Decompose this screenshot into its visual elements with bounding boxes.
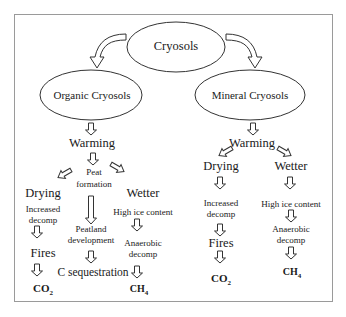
arrow-down-icon [286,247,297,259]
left-c-sequestration: C sequestration [57,267,128,279]
arrow-down-icon [32,264,43,276]
right-drying: Drying [203,160,238,173]
arrow-down-icon [86,196,97,224]
arrow-down-icon [215,224,226,236]
left-wetter: Wetter [126,187,159,200]
arrow-down-icon [86,123,97,135]
right-warming: Warming [229,137,275,150]
arrow-diagonal-icon [56,166,73,181]
left-ch4: CH4 [130,284,149,297]
arrow-down-icon [132,266,143,278]
arrow-down-icon [285,177,296,189]
right-anaerobic-decomp: decomp [277,236,306,245]
right-wetter: Wetter [274,160,307,173]
arrow-down-icon [286,210,297,222]
node-organic-cryosols: Organic Cryosols [53,90,130,101]
arrow-down-icon [215,177,226,189]
left-anaerobic-decomp: decomp [129,250,158,259]
arrow-down-icon [88,153,99,165]
node-cryosols: Cryosols [154,40,198,53]
arrow-diagonal-icon [276,144,293,159]
left-decomp: decomp [29,216,58,225]
arrow-down-icon [86,251,97,263]
right-high-ice: High ice content [261,200,320,209]
left-fires: Fires [31,247,56,260]
arrow-diagonal-icon [109,160,126,175]
left-peat: Peat [86,168,102,177]
arrow-down-icon [215,251,226,263]
curved-arrow-right-icon [226,34,262,68]
left-drying: Drying [25,187,60,200]
left-anaerobic: Anaerobic [124,239,161,248]
left-increased: Increased [26,205,60,214]
right-anaerobic: Anaerobic [272,225,309,234]
left-warming: Warming [69,137,115,150]
left-peatland: Peatland [76,225,107,234]
right-fires: Fires [209,237,234,250]
right-increased: Increased [204,199,238,208]
curved-arrow-left-icon [90,34,126,68]
left-development: development [68,236,115,245]
arrow-down-icon [248,123,259,135]
left-high-ice: High ice content [113,208,172,217]
node-mineral-cryosols: Mineral Cryosols [212,90,289,101]
right-co2: CO2 [211,273,231,287]
arrow-down-icon [132,219,143,231]
right-decomp: decomp [207,210,236,219]
left-formation: formation [76,180,112,189]
right-ch4: CH4 [283,267,302,280]
arrow-down-icon [32,226,43,238]
left-co2: CO2 [33,283,53,297]
